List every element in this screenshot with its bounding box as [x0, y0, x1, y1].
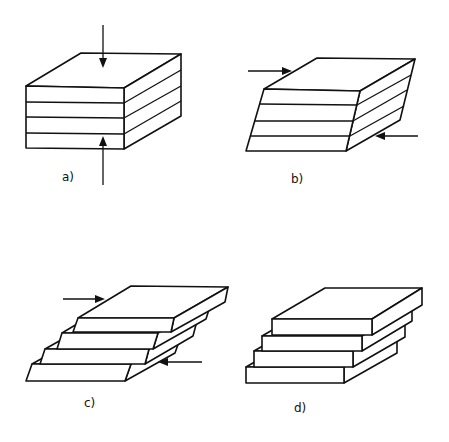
panel-b-arrow-right — [248, 67, 292, 75]
panel-a-block — [26, 53, 181, 149]
panel-d-layer-4 — [246, 367, 344, 383]
panel-d-layer-1 — [272, 319, 372, 335]
panel-c-layer-4 — [26, 364, 131, 381]
panel-d-layer-3 — [254, 351, 353, 367]
panel-a-label: a) — [62, 170, 74, 184]
panel-c-arrow-right — [63, 295, 105, 303]
panel-d-label: d) — [294, 401, 306, 415]
panel-c-layer-1 — [73, 318, 174, 332]
panel-a-arrow-up — [99, 136, 107, 185]
panel-b-front-face — [246, 89, 360, 151]
panel-c-layer-2 — [57, 333, 158, 349]
panel-b-label: b) — [291, 172, 303, 186]
panel-b-arrow-left — [375, 132, 418, 140]
panel-b-block — [246, 58, 415, 151]
panel-d-block — [246, 288, 422, 383]
diagram-canvas — [0, 0, 449, 442]
panel-d-layer-2 — [262, 336, 362, 351]
panel-c-block — [26, 286, 228, 381]
panel-c-layer-3 — [40, 349, 149, 364]
panel-c-label: c) — [84, 396, 95, 410]
